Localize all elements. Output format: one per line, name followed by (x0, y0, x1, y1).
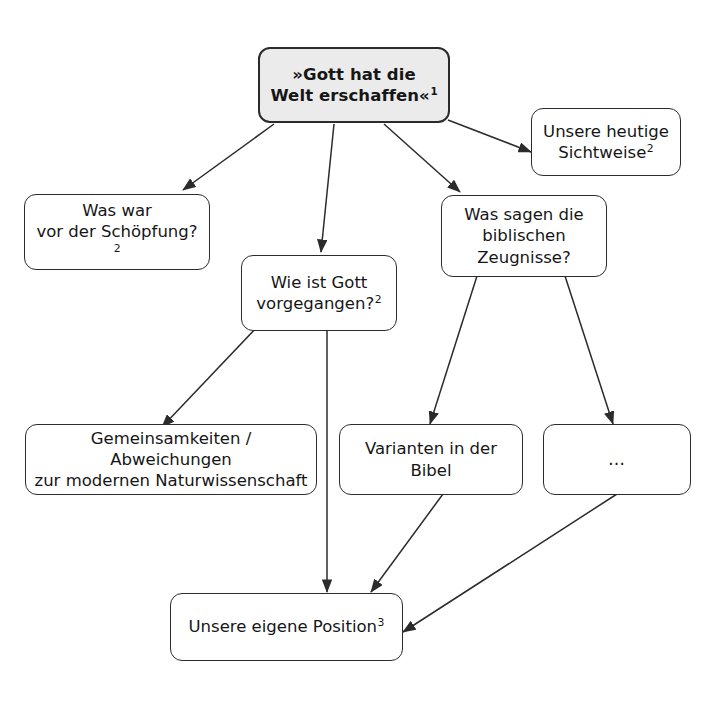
edge-root-to-unsere-heutige (448, 120, 531, 152)
node-label: Was war vor der Schöpfung?2 (33, 200, 201, 263)
node-varianten-in-der-bibel[interactable]: Varianten in der Bibel (339, 424, 523, 495)
node-label: Unsere eigene Position3 (179, 616, 394, 637)
node-was-war-vor-der-schoepfung[interactable]: Was war vor der Schöpfung?2 (24, 194, 210, 270)
diagram-canvas: »Gott hat die Welt erschaffen«1 Unsere h… (0, 0, 719, 703)
node-wie-ist-gott-vorgegangen[interactable]: Wie ist Gott vorgegangen?2 (241, 255, 397, 331)
node-label: Unsere heutige Sichtweise2 (540, 121, 672, 163)
edge-root-to-was-war (183, 124, 274, 190)
edge-wie-ist-gott-to-gemeinsamkeiten (162, 326, 258, 427)
node-gott-hat-die-welt-erschaffen[interactable]: »Gott hat die Welt erschaffen«1 (258, 47, 450, 123)
node-was-sagen-die-biblischen-zeugnisse[interactable]: Was sagen die biblischen Zeugnisse? (441, 195, 607, 277)
footnote-marker: 3 (377, 616, 384, 629)
node-label: »Gott hat die Welt erschaffen«1 (268, 64, 440, 106)
node-gemeinsamkeiten-abweichungen[interactable]: Gemeinsamkeiten / Abweichungen zur moder… (25, 424, 317, 495)
edge-weitere-to-unsere-eigene-position (403, 494, 617, 632)
edge-root-to-was-sagen (384, 124, 460, 192)
edge-varianten-to-unsere-eigene-position (371, 494, 443, 592)
footnote-marker: 2 (646, 142, 653, 155)
node-unsere-heutige-sichtweise[interactable]: Unsere heutige Sichtweise2 (531, 108, 681, 176)
footnote-marker: 1 (430, 86, 438, 97)
footnote-marker: 2 (113, 242, 120, 255)
node-label: Varianten in der Bibel (348, 438, 514, 480)
node-label: Wie ist Gott vorgegangen?2 (250, 272, 388, 314)
node-label: … (552, 449, 682, 471)
edge-was-sagen-to-weitere (565, 276, 613, 424)
node-label: Gemeinsamkeiten / Abweichungen zur moder… (34, 428, 308, 491)
node-label: Was sagen die biblischen Zeugnisse? (450, 204, 598, 267)
edge-root-to-wie-ist-gott (321, 124, 334, 252)
footnote-marker: 2 (374, 293, 381, 306)
edge-was-sagen-to-varianten (430, 276, 477, 424)
node-unsere-eigene-position[interactable]: Unsere eigene Position3 (170, 593, 403, 661)
node-weitere-punkte[interactable]: … (543, 424, 691, 495)
